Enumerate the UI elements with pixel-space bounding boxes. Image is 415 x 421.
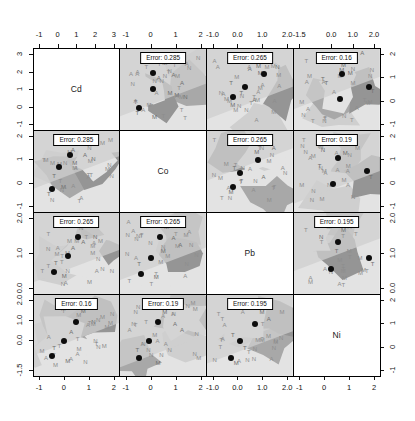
class-symbol: N [46, 246, 50, 252]
class-symbol: M [55, 251, 60, 257]
class-symbol: N [311, 188, 315, 194]
class-symbol: T [128, 278, 132, 284]
class-symbol: T [94, 341, 98, 347]
axis-tick [380, 101, 384, 102]
axis-tick [380, 218, 384, 219]
data-point [335, 155, 341, 161]
axis-tick-label: -1 [296, 383, 303, 392]
class-symbol: A [129, 71, 133, 77]
class-symbol: N [279, 335, 283, 341]
class-symbol: A [131, 228, 135, 234]
class-symbol: T [88, 320, 92, 326]
axis-tick [64, 376, 65, 380]
class-symbol: A [262, 174, 266, 180]
class-symbol: N [368, 73, 372, 79]
axis-tick-label: 0 [56, 30, 60, 39]
class-symbol: M [271, 109, 276, 115]
axis-left: -10123-10120.01.02.0-1.50.01.02.0 [8, 48, 33, 376]
axis-tick [380, 323, 384, 324]
axis-tick-label: 0 [149, 30, 153, 39]
class-symbol: N [301, 112, 305, 118]
axis-tick-label: 2 [388, 134, 397, 138]
class-symbol: N [159, 352, 163, 358]
data-point [261, 71, 267, 77]
error-annotation: Error: 0.19 [316, 134, 358, 146]
class-symbol: M [357, 255, 362, 261]
class-symbol: N [303, 149, 307, 155]
scatter-panel-co-cd: MAAAMMNTMTTNMNNATATTATTAMANMTNANNAATErro… [119, 48, 207, 131]
class-symbol: N [228, 195, 232, 201]
class-symbol: A [183, 273, 187, 279]
data-point [237, 338, 243, 344]
data-point [75, 234, 81, 240]
class-symbol: T [183, 115, 187, 121]
scatter-panel-cd-pb: MAATMNNMTTTNATNTTNNMMTAMMMANNMAMError: 0… [33, 212, 121, 295]
class-symbol: T [47, 231, 51, 237]
axis-tick-label: 1 [388, 321, 397, 325]
class-symbol: T [59, 178, 63, 184]
class-symbol: N [244, 107, 248, 113]
class-symbol: M [196, 355, 201, 361]
class-symbol: M [260, 337, 265, 343]
axis-tick-label: 0 [322, 383, 326, 392]
class-symbol: A [47, 334, 51, 340]
class-symbol: M [193, 306, 198, 312]
class-symbol: T [305, 58, 309, 64]
class-symbol: M [350, 80, 355, 86]
axis-bottom: -1012-1012-1.00.01.02.0-1012 [33, 376, 380, 400]
data-point [157, 234, 163, 240]
axis-tick-label: 2 [388, 298, 397, 302]
axis-tick [380, 183, 384, 184]
class-symbol: N [189, 242, 193, 248]
class-symbol: A [252, 187, 256, 193]
class-symbol: M [279, 309, 284, 315]
error-annotation: Error: 0.265 [227, 52, 273, 64]
data-point [366, 255, 372, 261]
class-symbol: A [360, 50, 364, 56]
class-symbol: N [110, 268, 114, 274]
class-symbol: A [323, 266, 327, 272]
axis-tick-label: -1 [122, 383, 129, 392]
class-symbol: N [131, 81, 135, 87]
class-symbol: A [256, 89, 260, 95]
error-annotation: Error: 0.195 [314, 216, 360, 228]
class-symbol: M [100, 140, 105, 146]
error-annotation: Error: 0.265 [54, 216, 100, 228]
axis-top: -10123-1012-1.00.01.02.0-1.50.01.02.0 [33, 26, 380, 48]
class-symbol: T [302, 137, 306, 143]
data-point [51, 269, 57, 275]
class-symbol: N [125, 251, 129, 257]
class-symbol: T [220, 337, 224, 343]
axis-tick-label: 0.0 [326, 30, 336, 39]
class-symbol: M [175, 243, 180, 249]
axis-tick-label: 2.0 [282, 383, 292, 392]
class-symbol: M [88, 158, 93, 164]
axis-tick-label: -1 [15, 203, 24, 210]
class-symbol: N [253, 178, 257, 184]
class-symbol: T [136, 347, 140, 353]
class-symbol: T [304, 227, 308, 233]
class-symbol: N [50, 197, 54, 203]
class-symbol: T [139, 233, 143, 239]
class-symbol: A [44, 355, 48, 361]
class-symbol: T [273, 184, 277, 190]
data-point [255, 157, 261, 163]
axis-tick-label: -1 [388, 121, 397, 128]
class-symbol: M [342, 275, 347, 281]
axis-tick-label: 2 [15, 69, 24, 73]
class-symbol: A [156, 338, 160, 344]
class-symbol: A [272, 145, 276, 151]
axis-tick-label: -1 [36, 30, 43, 39]
class-symbol: N [184, 261, 188, 267]
class-symbol: A [346, 168, 350, 174]
class-symbol: T [144, 64, 148, 70]
class-symbol: N [300, 143, 304, 149]
data-point [49, 353, 55, 359]
variable-label: Ni [332, 330, 340, 340]
class-symbol: N [153, 78, 157, 84]
axis-tick [213, 376, 214, 380]
axis-tick [380, 136, 384, 137]
class-symbol: T [221, 316, 225, 322]
axis-tick-label: 2 [112, 383, 116, 392]
axis-tick-label: 3 [112, 30, 116, 39]
